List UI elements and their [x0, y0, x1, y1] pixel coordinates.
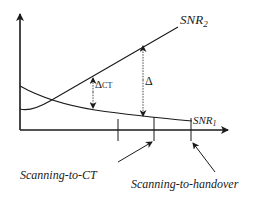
snr2-label: SNR2: [180, 12, 208, 29]
threshold-ticks: [118, 117, 191, 141]
pointer-scanning-to-ct: [118, 142, 152, 162]
axes: [20, 14, 228, 130]
delta-label: Δ: [145, 74, 153, 88]
snr1-label: SNR1: [193, 114, 217, 128]
pointer-scanning-to-handover: [193, 143, 215, 172]
delta-ct-label: ΔCT: [95, 78, 112, 90]
scanning-to-ct-label: Scanning-to-CT: [20, 168, 98, 182]
scanning-to-handover-label: Scanning-to-handover: [131, 177, 239, 191]
snr-diagram: SNR2 SNR1 ΔCT Δ Scanning-to-CT Scanning-…: [0, 0, 256, 203]
